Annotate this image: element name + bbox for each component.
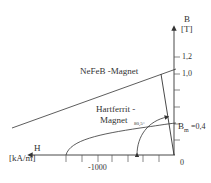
h-axis-ticks: [66, 155, 159, 162]
angle-label: 80,5°: [134, 121, 145, 127]
origin-label: 0: [180, 158, 184, 168]
nefeb-label: NeFeB -Magnet: [80, 66, 138, 76]
b-tick-1-2: 1,2: [182, 52, 192, 62]
b-axis-unit: [T]: [181, 24, 193, 34]
nefeb-curve: [12, 69, 176, 128]
b-tick-1-0: 1,0: [182, 69, 192, 79]
hartferrit-curve: [66, 123, 176, 155]
h-tick-minus-1000: -1000: [88, 163, 107, 173]
h-axis-label: H: [34, 143, 41, 153]
h-axis-unit: [kA/m]: [9, 153, 36, 163]
bm-subscript: m: [184, 127, 189, 133]
hartferrit-label-line2: Magnet: [100, 115, 128, 125]
bm-label: Bm =0,4: [178, 121, 205, 135]
b-axis-label: B: [184, 14, 190, 24]
bm-value: =0,4: [191, 122, 206, 131]
hartferrit-label-line1: Hartferrit -: [96, 104, 135, 114]
load-line: [161, 74, 174, 155]
